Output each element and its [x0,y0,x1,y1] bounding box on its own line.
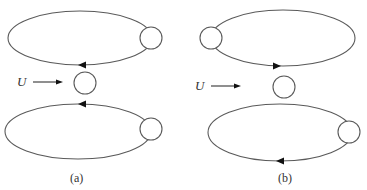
arrow-left-icon [78,101,86,108]
panel-a [5,11,162,159]
orbit-diagram: U U (a) (b) [0,0,367,190]
upper-orbit-a [8,11,152,65]
lower-body-a [140,118,162,140]
arrow-left-icon [78,62,86,69]
arrow-right-icon [234,84,241,89]
lower-orbit-a [5,104,151,159]
flow-label-b: U [195,78,204,94]
lower-orbit-b [208,104,352,161]
arrow-right-icon [273,63,281,70]
arrow-right-icon [56,80,63,85]
upper-body-a [140,27,162,49]
center-body-a [74,72,96,94]
upper-orbit-b [211,10,355,66]
upper-body-b [200,27,222,49]
lower-body-b [338,121,360,143]
flow-label-a: U [17,74,26,90]
diagram-canvas [0,0,367,190]
center-body-b [273,76,295,98]
panel-label-a: (a) [70,171,83,186]
panel-b [200,10,360,165]
panel-label-b: (b) [278,171,292,186]
arrow-left-icon [276,158,284,165]
